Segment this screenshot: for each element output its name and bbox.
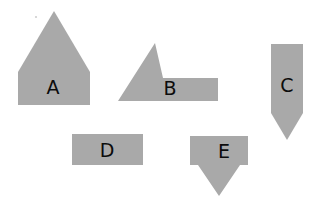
shape-c-label: C	[280, 74, 293, 96]
shape-d[interactable]: D	[72, 134, 143, 165]
shape-e-label: E	[218, 140, 230, 162]
shape-canvas: A B C D E	[0, 0, 320, 208]
shape-d-label: D	[100, 139, 115, 161]
speck-artifact	[35, 16, 37, 18]
shapes-diagram: A B C D E	[0, 0, 320, 208]
shape-a-label: A	[47, 76, 60, 98]
shape-b-label: B	[163, 77, 176, 99]
